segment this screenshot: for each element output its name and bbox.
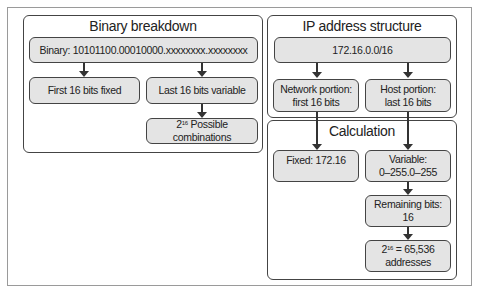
binary-value-node: Binary: 10101100.00010000.xxxxxxxx.xxxxx… (29, 37, 258, 63)
cidr-text: 172.16.0.0/16 (332, 44, 392, 57)
remaining-bits-node: Remaining bits: 16 (365, 195, 451, 227)
last-16-bits-node: Last 16 bits variable (146, 77, 258, 104)
cidr-node: 172.16.0.0/16 (274, 37, 451, 63)
host-portion-node: Host portion: last 16 bits (365, 79, 451, 112)
possible-combinations-text: 216 Possible combinations (147, 118, 257, 144)
first-16-bits-node: First 16 bits fixed (29, 77, 140, 104)
possible-combinations-node: 216 Possible combinations (146, 118, 258, 144)
last-16-bits-text: Last 16 bits variable (158, 84, 245, 97)
fixed-node: Fixed: 172.16 (273, 150, 359, 182)
calculation-title: Calculation (268, 123, 456, 139)
ip-structure-title: IP address structure (268, 18, 456, 34)
network-portion-node: Network portion: first 16 bits (273, 79, 359, 112)
variable-node: Variable: 0–255.0–255 (365, 150, 451, 182)
total-addresses-node: 216 = 65,536 addresses (365, 240, 451, 272)
first-16-bits-text: First 16 bits fixed (48, 84, 122, 97)
binary-value-text: Binary: 10101100.00010000.xxxxxxxx.xxxxx… (39, 44, 247, 57)
binary-breakdown-title: Binary breakdown (24, 18, 262, 34)
